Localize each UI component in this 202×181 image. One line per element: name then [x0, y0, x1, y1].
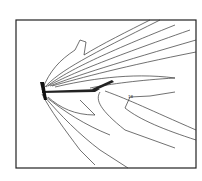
contour-label: 18: [128, 94, 134, 99]
contour-plot: 18: [0, 0, 202, 181]
contour-lines: [42, 20, 196, 168]
shock-cluster-2: [92, 80, 114, 91]
body-shape: [42, 89, 100, 93]
